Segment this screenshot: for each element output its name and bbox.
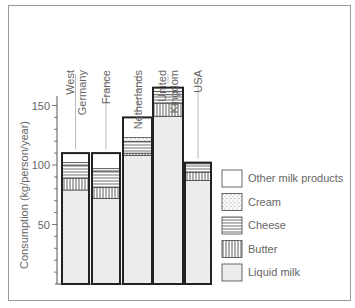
segment-butter <box>123 153 152 155</box>
y-tick-label: 150 <box>32 100 50 112</box>
legend: Other milk productsCreamCheeseButterLiqu… <box>222 170 344 281</box>
bar-france <box>92 153 120 284</box>
segment-butter <box>185 172 211 180</box>
category-label: Germany <box>76 70 88 116</box>
category-label: France <box>100 70 112 104</box>
y-tick-label: 50 <box>38 219 50 231</box>
legend-item-cream: Cream <box>222 194 281 211</box>
segment-cream <box>62 163 89 165</box>
legend-label: Liquid milk <box>248 266 300 278</box>
segment-cheese <box>92 171 120 188</box>
legend-item-other-milk-products: Other milk products <box>222 170 344 187</box>
legend-item-butter: Butter <box>222 241 278 258</box>
category-label: Netherlands <box>132 70 144 130</box>
legend-label: Butter <box>248 243 278 255</box>
segment-cheese <box>185 164 211 172</box>
segment-cheese <box>62 165 89 178</box>
legend-label: Other milk products <box>248 172 344 184</box>
y-tick-label: 100 <box>32 159 50 171</box>
bar-usa <box>185 163 211 284</box>
segment-other-milk-products <box>62 153 89 163</box>
bar-netherlands <box>123 117 152 284</box>
segment-butter <box>92 188 120 199</box>
segment-liquid-milk <box>153 116 183 284</box>
legend-label: Cheese <box>248 219 286 231</box>
segment-cheese <box>123 141 152 153</box>
category-label: West <box>64 70 76 95</box>
bar-west-germany <box>62 153 89 284</box>
y-axis-label: Consumption (kg/person/year) <box>18 121 30 269</box>
legend-item-cheese: Cheese <box>222 217 286 234</box>
legend-item-liquid-milk: Liquid milk <box>222 264 300 281</box>
bar-united-kingdom <box>153 88 183 284</box>
category-label: United <box>156 70 168 102</box>
segment-liquid-milk <box>62 190 89 284</box>
segment-cream <box>92 169 120 171</box>
category-label: Kingdom <box>168 70 180 113</box>
legend-label: Cream <box>248 196 281 208</box>
stacked-bar-chart: 50100150Consumption (kg/person/year) Wes… <box>0 0 355 308</box>
segment-butter <box>62 178 89 190</box>
category-label: USA <box>192 69 204 92</box>
segment-other-milk-products <box>92 153 120 168</box>
segment-liquid-milk <box>185 180 211 284</box>
segment-cream <box>123 138 152 142</box>
segment-liquid-milk <box>92 198 120 284</box>
segment-liquid-milk <box>123 155 152 284</box>
